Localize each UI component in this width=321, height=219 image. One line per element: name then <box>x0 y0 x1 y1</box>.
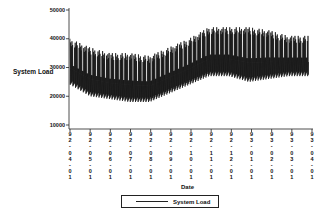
x-tick-93-03-01: 9 3 - 0 3 - 0 1 <box>289 131 295 181</box>
legend: System Load <box>121 195 219 208</box>
x-tick-93-04-01: 9 3 - 0 4 - 0 1 <box>309 131 315 181</box>
x-tick-92-06-01: 9 2 - 0 6 - 0 1 <box>107 131 113 181</box>
x-tick-92-07-01: 9 2 - 0 7 - 0 1 <box>128 131 134 181</box>
x-tick-92-04-01: 9 2 - 0 4 - 0 1 <box>67 131 73 181</box>
x-tick-92-10-01: 9 2 - 1 0 - 0 1 <box>188 131 194 181</box>
x-tick-93-01-01: 9 3 - 0 1 - 0 1 <box>249 131 255 181</box>
x-tick-92-08-01: 9 2 - 0 8 - 0 1 <box>148 131 154 181</box>
plot-area <box>0 0 321 219</box>
x-tick-92-11-01: 9 2 - 1 1 - 0 1 <box>208 131 214 181</box>
legend-line-swatch <box>136 201 168 202</box>
x-tick-92-05-01: 9 2 - 0 5 - 0 1 <box>87 131 93 181</box>
x-tick-92-12-01: 9 2 - 1 2 - 0 1 <box>228 131 234 181</box>
x-axis-label: Date <box>181 184 194 190</box>
x-tick-93-02-01: 9 3 - 0 2 - 0 1 <box>269 131 275 181</box>
x-tick-92-09-01: 9 2 - 0 9 - 0 1 <box>168 131 174 181</box>
legend-label: System Load <box>173 199 210 205</box>
